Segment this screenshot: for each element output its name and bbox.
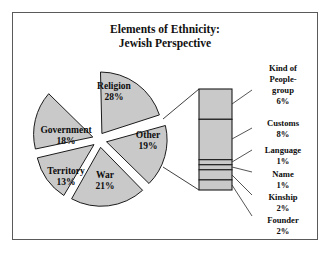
pie-label-territory-pct: 13% <box>57 177 76 187</box>
leader-line-customs <box>232 128 252 139</box>
callout-kind-of-people-group-line-1: Kind of <box>269 63 297 73</box>
callout-name-pct: 1% <box>277 180 290 190</box>
leader-line-language <box>232 150 252 162</box>
bar-segment-founder[interactable] <box>199 180 232 190</box>
pie-label-government-pct: 18% <box>57 136 76 146</box>
pie-label-religion-pct: 28% <box>105 92 124 102</box>
pie-label-government-name: Government <box>40 125 92 135</box>
leader-line-kind-of-people-group <box>232 90 252 104</box>
callout-kinship-pct: 2% <box>277 203 290 213</box>
pie-label-war-name: War <box>96 170 115 180</box>
callout-kind-of-people-group-line-2: People- <box>269 74 296 84</box>
callout-customs-pct: 8% <box>277 129 290 139</box>
callout-kind-of-people-group-pct: 6% <box>277 96 290 106</box>
connector-line-top <box>163 89 199 119</box>
chart-title-line-2: Jewish Perspective <box>119 37 211 50</box>
pie-label-other-pct: 19% <box>139 141 158 151</box>
callout-customs-name: Customs <box>267 118 300 128</box>
callout-founder-name: Founder <box>267 215 299 225</box>
bar-of-pie-chart: Elements of Ethnicity: Jewish Perspectiv… <box>0 0 332 256</box>
bar-segment-kind-of-people-group[interactable] <box>199 89 232 119</box>
callout-kind-of-people-group-line-3: group <box>272 85 294 95</box>
bar-segment-name[interactable] <box>199 165 232 170</box>
leader-line-kinship <box>232 175 252 195</box>
callout-language-name: Language <box>265 145 301 155</box>
bar-segment-language[interactable] <box>199 160 232 165</box>
chart-page: Elements of Ethnicity: Jewish Perspectiv… <box>0 0 332 256</box>
callout-founder-pct: 2% <box>277 226 290 236</box>
callout-name-name: Name <box>272 169 294 179</box>
leader-line-founder <box>232 185 252 216</box>
pie-label-religion-name: Religion <box>97 81 131 91</box>
pie-label-territory-name: Territory <box>47 166 85 176</box>
connector-line-bottom <box>163 167 199 190</box>
bar-segment-kinship[interactable] <box>199 170 232 180</box>
bar-segment-customs[interactable] <box>199 119 232 159</box>
pie-label-war-pct: 21% <box>96 181 115 191</box>
pie-label-other-name: Other <box>136 130 161 140</box>
leader-line-name <box>232 167 252 172</box>
callout-language-pct: 1% <box>277 156 290 166</box>
chart-title-line-1: Elements of Ethnicity: <box>110 23 220 36</box>
callout-kinship-name: Kinship <box>268 192 297 202</box>
